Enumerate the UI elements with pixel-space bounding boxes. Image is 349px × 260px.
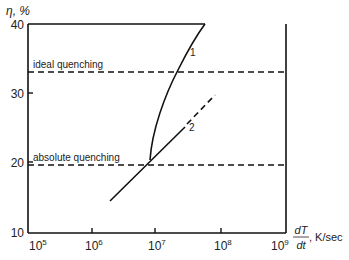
svg-text:, K/sec: , K/sec <box>309 231 343 243</box>
axes <box>28 24 286 233</box>
y-axis-label: η, % <box>6 4 30 18</box>
chart: η, % 40 30 20 10 ideal quenching absolut… <box>0 0 349 260</box>
svg-text:106: 106 <box>85 238 103 253</box>
svg-text:109: 109 <box>271 238 289 253</box>
svg-text:105: 105 <box>29 238 47 253</box>
y-tick-10: 10 <box>11 226 25 240</box>
svg-text:108: 108 <box>214 238 232 253</box>
x-axis-label: dT dt , K/sec <box>293 224 343 251</box>
svg-text:107: 107 <box>148 238 166 253</box>
curve-1-label: 1 <box>190 47 196 58</box>
curve-1 <box>150 24 205 160</box>
svg-text:dt: dt <box>296 239 306 251</box>
curve-2-extrapolated <box>187 95 215 124</box>
y-tick-30: 30 <box>11 87 25 101</box>
ideal-quenching-label: ideal quenching <box>33 59 103 70</box>
svg-text:dT: dT <box>295 224 309 236</box>
x-tick-labels: 105 106 107 108 109 <box>29 238 289 253</box>
y-tick-40: 40 <box>11 18 25 32</box>
curve-2 <box>110 127 185 201</box>
curve-2-label: 2 <box>189 122 195 133</box>
y-tick-20: 20 <box>11 156 25 170</box>
absolute-quenching-label: absolute quenching <box>33 152 120 163</box>
